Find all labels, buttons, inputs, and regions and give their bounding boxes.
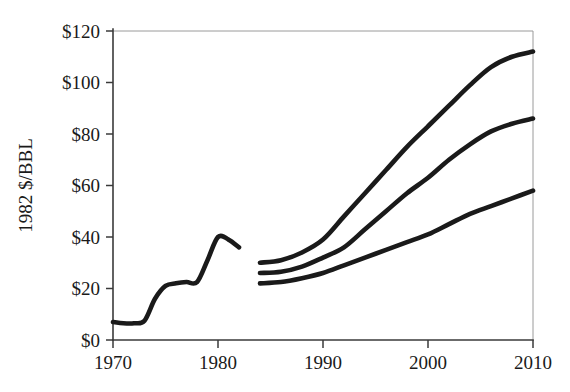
- oil-price-forecast-chart: $0$20$40$60$80$100$120 19701980199020002…: [0, 0, 570, 392]
- data-series-group: [113, 52, 533, 324]
- y-tick-label: $80: [72, 124, 101, 145]
- series-line: [260, 52, 533, 263]
- x-axis-tick-labels: 19701980199020002010: [94, 352, 552, 373]
- y-tick-label: $20: [72, 278, 101, 299]
- chart-canvas: $0$20$40$60$80$100$120 19701980199020002…: [0, 0, 570, 392]
- y-axis-title: 1982 $/BBL: [15, 138, 36, 232]
- y-tick-label: $0: [81, 330, 100, 351]
- y-tick-label: $60: [72, 175, 101, 196]
- x-tick-label: 1980: [199, 352, 237, 373]
- y-axis: $0$20$40$60$80$100$120: [62, 21, 113, 351]
- y-axis-tick-labels: $0$20$40$60$80$100$120: [62, 21, 100, 351]
- plot-frame-border: [113, 31, 533, 340]
- y-tick-label: $100: [62, 72, 100, 93]
- plot-frame: [113, 31, 533, 340]
- y-tick-label: $40: [72, 227, 101, 248]
- x-axis: 19701980199020002010: [94, 340, 552, 373]
- x-tick-label: 2010: [514, 352, 552, 373]
- series-line: [113, 236, 239, 324]
- x-tick-label: 1990: [304, 352, 342, 373]
- y-axis-ticks: [106, 31, 113, 340]
- x-tick-label: 2000: [409, 352, 447, 373]
- x-axis-ticks: [113, 340, 533, 348]
- x-tick-label: 1970: [94, 352, 132, 373]
- y-tick-label: $120: [62, 21, 100, 42]
- series-line: [260, 119, 533, 273]
